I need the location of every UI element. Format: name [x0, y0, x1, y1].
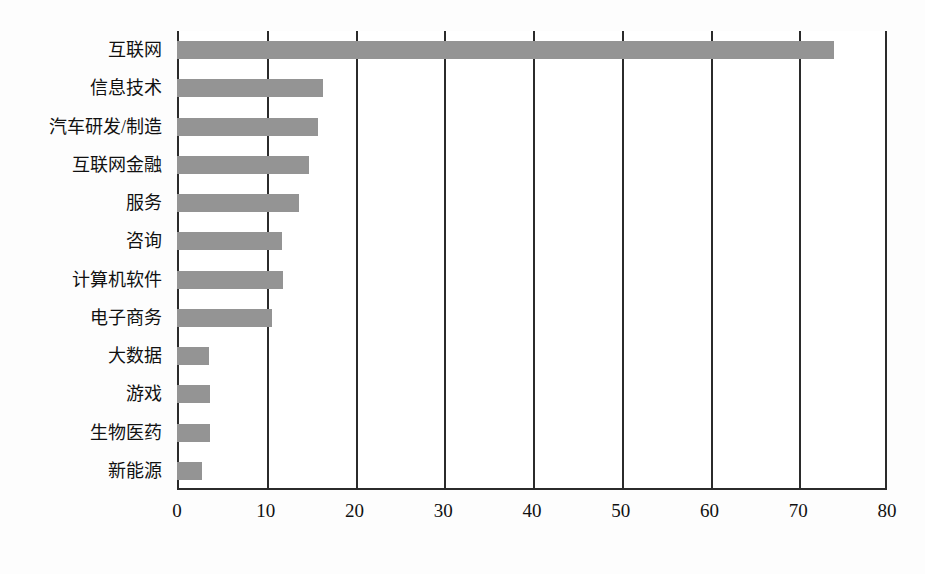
- bar-9: [177, 385, 210, 403]
- bar-7: [177, 309, 272, 327]
- category-label-5: 咨询: [126, 231, 162, 251]
- category-label-10: 生物医药: [90, 423, 162, 443]
- category-label-3: 互联网金融: [72, 155, 162, 175]
- category-label-7: 电子商务: [90, 308, 162, 328]
- category-label-0: 互联网: [108, 40, 162, 60]
- bar-6: [177, 271, 283, 289]
- x-tick-label-70: 70: [768, 498, 828, 524]
- x-tick-label-20: 20: [325, 498, 385, 524]
- category-label-4: 服务: [126, 193, 162, 213]
- x-axis-tick-labels: 01020304050607080: [0, 498, 925, 528]
- bar-11: [177, 462, 202, 480]
- bar-10: [177, 424, 210, 442]
- category-axis-labels: 互联网信息技术汽车研发/制造互联网金融服务咨询计算机软件电子商务大数据游戏生物医…: [0, 31, 170, 490]
- x-tick-label-80: 80: [857, 498, 917, 524]
- x-tick-label-40: 40: [502, 498, 562, 524]
- category-label-1: 信息技术: [90, 78, 162, 98]
- bar-4: [177, 194, 299, 212]
- category-label-11: 新能源: [108, 461, 162, 481]
- bar-3: [177, 156, 309, 174]
- bar-0: [177, 41, 834, 59]
- bar-2: [177, 118, 318, 136]
- bar-chart: 互联网信息技术汽车研发/制造互联网金融服务咨询计算机软件电子商务大数据游戏生物医…: [0, 0, 925, 574]
- bar-5: [177, 232, 282, 250]
- category-label-2: 汽车研发/制造: [49, 117, 162, 137]
- category-label-9: 游戏: [126, 384, 162, 404]
- bar-1: [177, 79, 323, 97]
- x-tick-label-30: 30: [413, 498, 473, 524]
- category-label-8: 大数据: [108, 346, 162, 366]
- bars-layer: [177, 31, 887, 490]
- x-tick-label-10: 10: [236, 498, 296, 524]
- x-tick-label-50: 50: [591, 498, 651, 524]
- x-tick-label-0: 0: [147, 498, 207, 524]
- bar-8: [177, 347, 209, 365]
- category-label-6: 计算机软件: [72, 270, 162, 290]
- x-tick-label-60: 60: [680, 498, 740, 524]
